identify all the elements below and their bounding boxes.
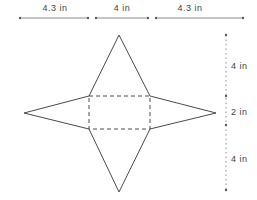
dimension-tick-6 [225, 34, 227, 36]
triangle-edge-0 [89, 35, 119, 96]
dimension-tick-2 [95, 17, 97, 19]
triangle-edge-4 [150, 96, 216, 113]
dim-label-right-middle: 2 in [231, 107, 248, 117]
triangle-edge-5 [150, 113, 216, 129]
dim-label-top-left: 4.3 in [42, 3, 67, 13]
dim-label-right-bottom: 4 in [231, 154, 248, 164]
dimension-tick-9 [225, 189, 227, 191]
dimension-tick-4 [155, 17, 157, 19]
triangle-edge-7 [119, 129, 150, 192]
dimension-tick-5 [242, 17, 244, 19]
pyramid-base-dashed-rect [89, 96, 150, 129]
dimension-tick-8 [225, 124, 227, 126]
triangle-edge-6 [89, 129, 119, 192]
dim-label-right-top: 4 in [231, 61, 248, 71]
triangle-edge-1 [119, 35, 150, 96]
dimension-tick-7 [225, 95, 227, 97]
triangle-edge-3 [24, 113, 89, 129]
dim-label-top-right: 4.3 in [177, 3, 202, 13]
dim-label-top-middle: 4 in [114, 3, 131, 13]
dimension-tick-3 [147, 17, 149, 19]
pyramid-net-diagram [0, 0, 257, 200]
pyramid-net-figure: 4.3 in 4 in 4.3 in 4 in 2 in 4 in [0, 0, 257, 200]
dimension-tick-0 [19, 17, 21, 19]
triangle-edge-2 [24, 96, 89, 113]
dimension-tick-1 [87, 17, 89, 19]
